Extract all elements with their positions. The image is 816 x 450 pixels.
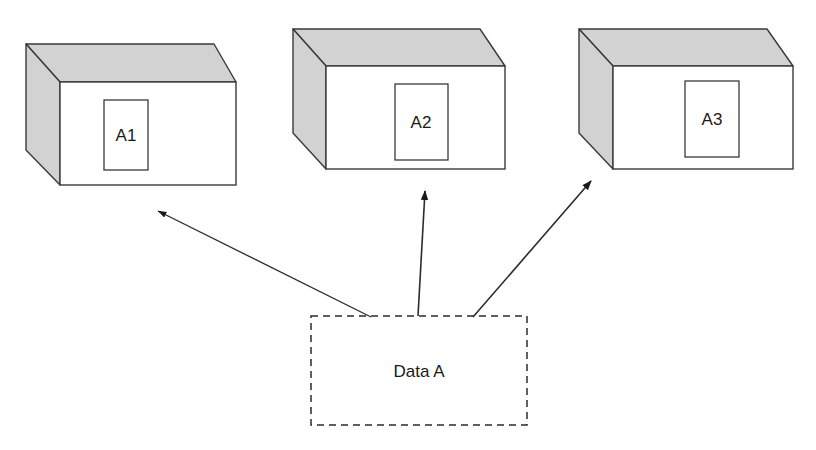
data-a-label: Data A bbox=[393, 362, 445, 381]
unit-a2-top-face bbox=[293, 29, 505, 66]
arrow-to-a3 bbox=[473, 181, 591, 317]
unit-a2-label: A2 bbox=[411, 113, 432, 132]
unit-a1-label: A1 bbox=[116, 126, 137, 145]
unit-a3-group[interactable]: A3 bbox=[579, 29, 793, 169]
unit-a2-group[interactable]: A2 bbox=[293, 29, 505, 169]
unit-a1-top-face bbox=[26, 44, 236, 82]
diagram-svg: A1 A2 A3 Data A bbox=[0, 0, 816, 450]
diagram-canvas: A1 A2 A3 Data A bbox=[0, 0, 816, 450]
arrow-to-a2 bbox=[418, 191, 425, 316]
arrow-to-a1 bbox=[158, 211, 371, 317]
unit-a3-label: A3 bbox=[702, 110, 723, 129]
unit-a1-group[interactable]: A1 bbox=[26, 44, 236, 185]
data-a-group[interactable]: Data A bbox=[311, 316, 527, 425]
unit-a3-top-face bbox=[579, 29, 793, 66]
